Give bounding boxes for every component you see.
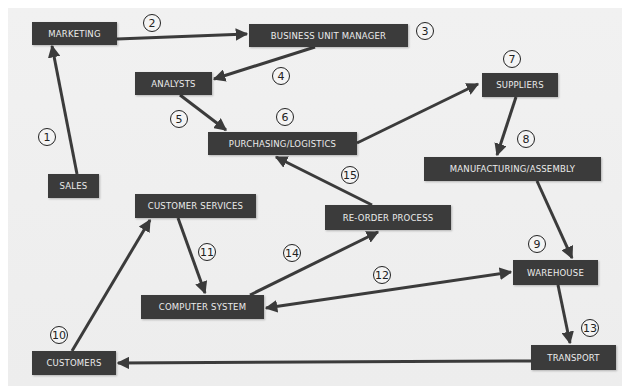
step-badge-2: 2: [143, 14, 161, 32]
node-transport: TRANSPORT: [531, 345, 616, 370]
step-badge-1: 1: [38, 128, 56, 146]
step-number: 13: [583, 322, 597, 335]
step-badge-12: 12: [373, 266, 391, 284]
step-number: 12: [375, 269, 389, 282]
arrow-suppliers-to-manufacturing: [497, 97, 516, 155]
node-label: TRANSPORT: [547, 353, 599, 363]
node-label: CUSTOMERS: [46, 358, 101, 368]
step-number: 2: [149, 17, 156, 30]
step-number: 11: [200, 246, 214, 259]
step-badge-10: 10: [50, 326, 68, 344]
node-business-unit-manager: BUSINESS UNIT MANAGER: [249, 24, 408, 47]
arrow-warehouse-to-transport: [558, 285, 570, 343]
arrow-customers-to-customer-services: [72, 220, 150, 351]
step-badge-14: 14: [283, 244, 301, 262]
step-badge-11: 11: [198, 243, 216, 261]
arrow-marketing-to-bum: [117, 34, 247, 39]
node-customer-services: CUSTOMER SERVICES: [135, 194, 256, 218]
arrow-sales-to-marketing: [52, 46, 77, 174]
node-label: MANUFACTURING/ASSEMBLY: [450, 164, 575, 174]
node-sales: SALES: [48, 174, 99, 198]
node-purchasing-logistics: PURCHASING/LOGISTICS: [208, 132, 357, 155]
arrow-purchasing-to-suppliers: [357, 84, 478, 143]
step-number: 9: [534, 238, 541, 251]
arrow-analysts-to-purchasing: [180, 95, 226, 130]
node-label: MARKETING: [48, 29, 100, 39]
step-badge-7: 7: [503, 50, 521, 68]
step-number: 3: [422, 25, 429, 38]
arrow-transport-to-customers: [118, 361, 531, 363]
node-label: WAREHOUSE: [527, 268, 584, 278]
node-customers: CUSTOMERS: [32, 351, 116, 375]
step-number: 4: [278, 70, 285, 83]
node-reorder-process: RE-ORDER PROCESS: [325, 205, 451, 230]
node-label: CUSTOMER SERVICES: [148, 201, 243, 211]
node-computer-system: COMPUTER SYSTEM: [141, 295, 264, 319]
step-badge-13: 13: [581, 319, 599, 337]
node-label: SALES: [60, 181, 88, 191]
node-label: SUPPLIERS: [496, 80, 544, 90]
step-number: 15: [343, 169, 357, 182]
step-badge-5: 5: [170, 110, 188, 128]
step-badge-4: 4: [272, 67, 290, 85]
node-suppliers: SUPPLIERS: [482, 73, 558, 97]
arrow-reorder-to-purchasing: [276, 157, 372, 205]
node-label: PURCHASING/LOGISTICS: [229, 139, 336, 149]
node-manufacturing-assembly: MANUFACTURING/ASSEMBLY: [424, 157, 601, 181]
arrow-computer-system-to-reorder: [250, 232, 378, 295]
step-number: 10: [52, 329, 66, 342]
arrow-bum-to-analysts: [214, 47, 315, 79]
step-number: 8: [523, 133, 530, 146]
step-badge-15: 15: [341, 166, 359, 184]
step-number: 14: [285, 247, 299, 260]
node-label: COMPUTER SYSTEM: [159, 302, 246, 312]
node-analysts: ANALYSTS: [135, 72, 212, 95]
node-label: BUSINESS UNIT MANAGER: [271, 31, 386, 41]
node-label: ANALYSTS: [151, 79, 195, 89]
step-number: 6: [282, 111, 289, 124]
step-number: 7: [509, 53, 516, 66]
step-badge-3: 3: [416, 22, 434, 40]
step-badge-8: 8: [517, 130, 535, 148]
node-marketing: MARKETING: [32, 22, 117, 45]
step-badge-6: 6: [276, 108, 294, 126]
node-label: RE-ORDER PROCESS: [343, 213, 434, 223]
node-warehouse: WAREHOUSE: [513, 260, 598, 285]
step-number: 5: [176, 113, 183, 126]
step-badge-9: 9: [528, 235, 546, 253]
step-number: 1: [44, 131, 51, 144]
